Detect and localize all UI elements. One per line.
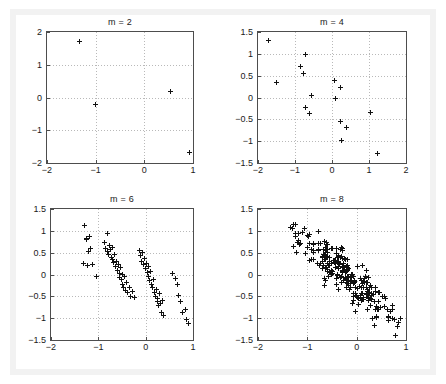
scatter-point — [82, 223, 87, 228]
y-tick-label: 1 — [223, 49, 253, 59]
x-tick-label: −2 — [253, 342, 263, 352]
y-tick — [51, 275, 54, 276]
scatter-point — [351, 291, 356, 296]
y-tick — [258, 163, 261, 164]
scatter-point — [311, 248, 316, 253]
scatter-point — [90, 262, 95, 267]
scatter-point — [305, 245, 310, 250]
x-tick-label: 0 — [329, 165, 334, 175]
scatter-point — [327, 255, 332, 260]
y-tick-label: −0.5 — [16, 291, 46, 301]
scatter-point — [348, 285, 353, 290]
x-tick-label: 1 — [190, 165, 195, 175]
scatter-point — [324, 240, 329, 245]
x-tick-label: −2 — [46, 342, 56, 352]
y-tick-label: 0.5 — [223, 248, 253, 258]
gridline-horizontal — [51, 253, 193, 254]
scatter-point — [175, 282, 180, 287]
scatter-point — [395, 324, 400, 329]
y-tick-label: 0 — [16, 93, 42, 103]
scatter-point — [370, 316, 375, 321]
y-tick-label: −1.5 — [16, 335, 46, 345]
y-tick-label: −0.5 — [223, 114, 253, 124]
scatter-point — [339, 138, 344, 143]
x-tick — [406, 160, 407, 163]
scatter-point — [173, 276, 178, 281]
x-tick — [193, 337, 194, 340]
scatter-point — [161, 313, 166, 318]
y-tick — [47, 130, 50, 131]
panel-title-m2: m = 2 — [46, 17, 194, 27]
scatter-point — [296, 231, 301, 236]
scatter-point — [376, 299, 381, 304]
y-tick-label: 0 — [16, 270, 46, 280]
x-tick-label: −2 — [42, 165, 52, 175]
gridline-horizontal — [47, 130, 193, 131]
y-tick-label: 1.5 — [223, 27, 253, 37]
scatter-point — [329, 261, 334, 266]
y-tick-label: 1 — [16, 226, 46, 236]
gridline-horizontal — [258, 141, 406, 142]
scatter-point — [360, 263, 365, 268]
y-tick-label: 0 — [223, 93, 253, 103]
scatter-point — [322, 283, 327, 288]
scatter-point — [102, 240, 107, 245]
axes-m6 — [50, 208, 194, 341]
y-tick — [258, 253, 261, 254]
gridline-horizontal — [258, 76, 406, 77]
x-tick-label: 1 — [403, 342, 408, 352]
gridline-horizontal — [258, 119, 406, 120]
scatter-point — [110, 245, 115, 250]
scatter-point — [309, 93, 314, 98]
gridline-horizontal — [51, 296, 193, 297]
gridline-horizontal — [258, 231, 406, 232]
scatter-point — [332, 78, 337, 83]
scatter-point — [360, 297, 365, 302]
scatter-point — [298, 64, 303, 69]
scatter-point — [168, 89, 173, 94]
scatter-point — [339, 274, 344, 279]
y-tick-label: −1.5 — [223, 335, 253, 345]
scatter-point — [266, 38, 271, 43]
y-tick — [47, 32, 50, 33]
panel-title-m4: m = 4 — [257, 17, 407, 27]
x-tick-label: −1 — [91, 165, 101, 175]
scatter-point — [340, 246, 345, 251]
figure-root: m = 2 −2−101−2−1012 m = 4 −2−1012−1.5−1−… — [0, 0, 446, 384]
gridline-horizontal — [47, 65, 193, 66]
y-tick-label: 1 — [16, 60, 42, 70]
scatter-point — [356, 302, 361, 307]
scatter-point — [295, 240, 300, 245]
x-tick — [193, 160, 194, 163]
scatter-point — [329, 272, 334, 277]
gridline-horizontal — [258, 253, 406, 254]
scatter-point — [368, 110, 373, 115]
axes-m2 — [46, 31, 194, 164]
y-tick-label: 1.5 — [16, 204, 46, 214]
x-tick — [369, 160, 370, 163]
scatter-point — [372, 323, 377, 328]
y-tick — [258, 76, 261, 77]
scatter-point — [390, 316, 395, 321]
scatter-point — [140, 250, 145, 255]
gridline-horizontal — [258, 318, 406, 319]
x-tick-label: 0 — [354, 342, 359, 352]
y-tick — [47, 163, 50, 164]
scatter-point — [355, 264, 360, 269]
x-tick — [307, 337, 308, 340]
y-tick-label: −1 — [223, 136, 253, 146]
axes-m4 — [257, 31, 407, 164]
scatter-point — [323, 278, 328, 283]
scatter-point — [305, 233, 310, 238]
y-tick-label: 1 — [223, 226, 253, 236]
x-tick — [146, 337, 147, 340]
scatter-point — [353, 309, 358, 314]
scatter-point — [338, 119, 343, 124]
scatter-point — [186, 321, 191, 326]
scatter-point — [342, 256, 347, 261]
x-tick — [357, 337, 358, 340]
gridline-horizontal — [51, 231, 193, 232]
y-tick — [258, 119, 261, 120]
scatter-point — [303, 251, 308, 256]
scatter-point — [323, 245, 328, 250]
